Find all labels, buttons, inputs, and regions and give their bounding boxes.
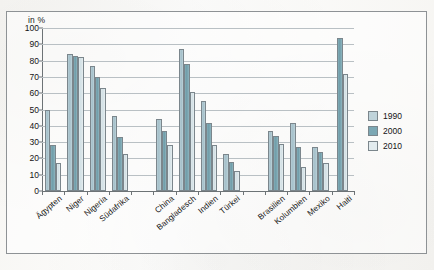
bar-türkei-2010 [234, 171, 239, 191]
x-category-label-haiti: Haiti [335, 194, 354, 212]
legend-swatch-2010 [368, 141, 378, 151]
bar-brasilien-2010 [279, 144, 284, 191]
bar-kolumbien-2010 [301, 167, 306, 191]
legend-item-1990[interactable]: 1990 [368, 108, 422, 123]
y-tick-label-10: 10 [30, 170, 39, 180]
x-category-label-türkei: Türkei [219, 194, 243, 216]
y-tick-label-20: 20 [30, 153, 39, 163]
legend-item-2010[interactable]: 2010 [368, 138, 422, 153]
x-tick-mark [354, 191, 355, 195]
chart-legend: 199020002010 [368, 108, 422, 153]
bar-china-2010 [167, 145, 172, 191]
x-category-label-mexiko: Mexiko [305, 194, 331, 218]
bar-nigeria-2010 [100, 88, 105, 191]
legend-item-2000[interactable]: 2000 [368, 123, 422, 138]
gridline-90 [42, 44, 354, 45]
y-tick-label-50: 50 [30, 105, 39, 115]
bar-haiti-2010 [343, 74, 348, 191]
y-tick-label-70: 70 [30, 72, 39, 82]
legend-label-2000: 2000 [383, 126, 402, 136]
bar-mexiko-2010 [323, 163, 328, 191]
bar-ägypten-2010 [56, 163, 61, 191]
y-tick-label-100: 100 [25, 23, 39, 33]
y-tick-label-90: 90 [30, 39, 39, 49]
legend-label-2010: 2010 [383, 141, 402, 151]
y-tick-label-80: 80 [30, 56, 39, 66]
bar-niger-2010 [78, 57, 83, 191]
chart-figure: in % 0102030405060708090100 ÄgyptenNiger… [0, 0, 434, 270]
y-axis-tick-labels: 0102030405060708090100 [12, 28, 39, 191]
x-axis-category-labels: ÄgyptenNigerNigeriaSüdafrikaChinaBanglad… [42, 194, 354, 254]
y-tick-label-30: 30 [30, 137, 39, 147]
legend-label-1990: 1990 [383, 111, 402, 121]
y-tick-label-40: 40 [30, 121, 39, 131]
y-tick-label-60: 60 [30, 88, 39, 98]
bar-indien-2010 [212, 145, 217, 191]
gridline-100 [42, 28, 354, 29]
plot-area [42, 28, 354, 191]
legend-swatch-2000 [368, 126, 378, 136]
bar-bangladesch-2010 [190, 92, 195, 191]
legend-swatch-1990 [368, 111, 378, 121]
bar-südafrika-2010 [123, 154, 128, 191]
gridline-80 [42, 61, 354, 62]
x-category-label-indien: Indien [197, 194, 220, 216]
